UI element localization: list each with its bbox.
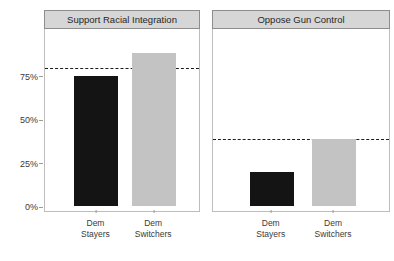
panel-title-left: Support Racial Integration (67, 15, 177, 25)
y-tick-mark-75 (39, 76, 43, 77)
y-tick-label-75: 75% (20, 72, 38, 81)
bar-dem-stayers-right (250, 172, 294, 207)
x-label-line1: Dem (256, 218, 285, 229)
x-label-line2: Switchers (135, 229, 172, 240)
x-tick-dem-switchers-left: Dem Switchers (135, 213, 172, 240)
panel-title-right: Oppose Gun Control (257, 15, 344, 25)
panel-strip-left: Support Racial Integration (44, 10, 200, 29)
x-label-line2: Stayers (81, 229, 110, 240)
bar-dem-stayers-left (74, 76, 118, 206)
y-tick-label-50: 50% (20, 116, 38, 125)
bar-dem-switchers-right (312, 139, 356, 207)
x-label-line2: Switchers (315, 229, 352, 240)
x-label-line1: Dem (315, 218, 352, 229)
panel-strip-right: Oppose Gun Control (212, 10, 390, 29)
x-tick-mark (333, 210, 334, 213)
x-tick-mark (153, 210, 154, 213)
x-axis-right: Dem Stayers Dem Switchers (212, 213, 390, 253)
y-tick-mark-50 (39, 120, 43, 121)
reference-line-right (213, 139, 389, 140)
bar-dem-switchers-left (132, 53, 176, 206)
y-tick-mark-25 (39, 163, 43, 164)
y-axis: 75% 50% 25% 0% (0, 0, 46, 261)
x-axis-left: Dem Stayers Dem Switchers (44, 213, 200, 253)
y-tick-label-0: 0% (25, 203, 38, 212)
plot-area-right (213, 29, 389, 211)
panel-support-racial-integration: Support Racial Integration (44, 10, 200, 212)
x-tick-mark (271, 210, 272, 213)
x-label-line1: Dem (135, 218, 172, 229)
x-label-line1: Dem (81, 218, 110, 229)
x-label-line2: Stayers (256, 229, 285, 240)
y-tick-label-25: 25% (20, 159, 38, 168)
x-tick-dem-stayers-left: Dem Stayers (81, 213, 110, 240)
faceted-bar-chart: 75% 50% 25% 0% Support Racial Integratio… (0, 0, 394, 261)
x-tick-mark (95, 210, 96, 213)
x-tick-dem-switchers-right: Dem Switchers (315, 213, 352, 240)
plot-area-left (45, 29, 199, 211)
y-tick-mark-0 (39, 207, 43, 208)
x-tick-dem-stayers-right: Dem Stayers (256, 213, 285, 240)
panel-oppose-gun-control: Oppose Gun Control (212, 10, 390, 212)
